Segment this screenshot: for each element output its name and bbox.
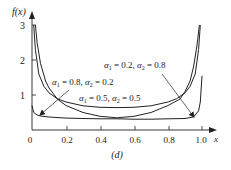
x-tick-0: 0 bbox=[28, 135, 33, 145]
annotation-a1-0.8: α1 = 0.8, α2 = 0.2 bbox=[52, 77, 114, 88]
y-axis-arrow-icon bbox=[29, 11, 35, 19]
x-axis: 0 0.2 0.4 0.6 0.8 1.0 x bbox=[28, 126, 218, 145]
curves bbox=[32, 25, 202, 119]
x-tick-0.8: 0.8 bbox=[163, 135, 175, 145]
y-tick-1: 1 bbox=[20, 90, 25, 101]
annotation-a1-0.2: α1 = 0.2, α2 = 0.8 bbox=[104, 60, 166, 71]
figure-caption: (d) bbox=[111, 149, 123, 161]
arrow-a1-0.2 bbox=[162, 74, 194, 117]
x-tick-1.0: 1.0 bbox=[195, 135, 207, 145]
annotation-labels: α1 = 0.2, α2 = 0.8 α1 = 0.8, α2 = 0.2 α1… bbox=[52, 60, 166, 104]
annotation-a1-0.5: α1 = 0.5, α2 = 0.5 bbox=[79, 93, 141, 104]
y-axis: 1 2 3 f(x) bbox=[12, 6, 36, 130]
x-tick-0.6: 0.6 bbox=[129, 135, 141, 145]
x-axis-arrow-icon bbox=[209, 127, 217, 133]
x-axis-label: x bbox=[213, 134, 218, 144]
beta-density-chart: 1 2 3 f(x) 0 0.2 0.4 0.6 0.8 1.0 x α1 = … bbox=[0, 0, 231, 170]
arrow-a1-0.8 bbox=[40, 90, 69, 115]
y-tick-2: 2 bbox=[20, 55, 25, 66]
x-tick-0.4: 0.4 bbox=[95, 135, 107, 145]
x-tick-0.2: 0.2 bbox=[61, 135, 72, 145]
y-axis-label: f(x) bbox=[12, 6, 27, 18]
y-tick-3: 3 bbox=[20, 20, 25, 31]
